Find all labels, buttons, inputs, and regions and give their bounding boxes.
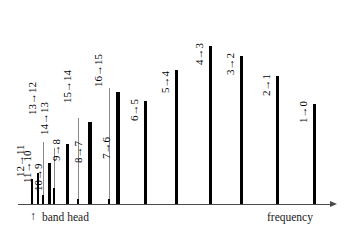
transition-label: 1→0 [298,101,309,123]
spectral-line [88,122,92,204]
transition-label: 6→5 [129,99,140,121]
transition-label: 16→15 [93,54,104,87]
leader-line [43,142,44,195]
spectral-line [116,92,120,204]
frequency-axis-line [18,204,332,205]
band-head-label: band head [42,212,89,224]
transition-label: 2→1 [261,74,272,96]
transition-label: 7→6 [101,137,112,159]
spectral-line [175,70,178,204]
transition-label: 4→3 [194,43,205,65]
transition-label: 9→8 [51,139,62,161]
spectral-line [77,199,79,204]
frequency-axis-label: frequency [267,212,313,224]
spectral-diagram-figure: 12→1111→1010→913→1214→139→815→148→716→15… [0,0,345,237]
spectral-line [66,144,69,204]
spectral-line [276,76,279,204]
band-head-arrow-icon: ↑ [30,210,36,222]
spectral-line [144,101,147,204]
transition-label: 8→7 [73,141,84,163]
spectral-line [53,188,55,204]
transition-label: 3→2 [225,53,236,75]
frequency-axis-arrow-icon [330,201,337,207]
spectral-line [42,195,44,204]
spectral-line [313,104,316,204]
transition-label: 14→13 [39,102,50,135]
transition-label: 15→14 [62,70,73,103]
spectral-line [108,199,110,204]
spectral-line [240,56,243,204]
spectral-line [48,163,51,204]
transition-label: 5→4 [160,71,171,93]
spectral-line [209,46,212,204]
transition-label: 13→12 [27,82,38,115]
